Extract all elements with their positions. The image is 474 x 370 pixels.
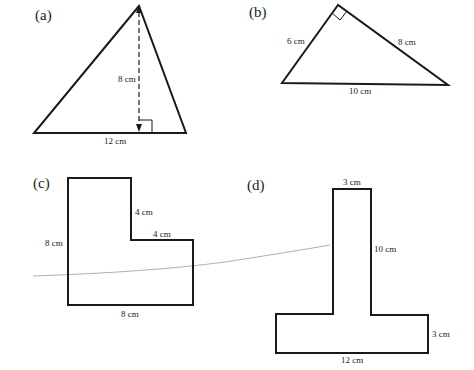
side-8-label: 8 cm [398,37,416,47]
base-label: 12 cm [104,136,126,146]
height-label: 8 cm [118,74,136,84]
right-angle-mark [332,11,347,20]
inner-vertical-label: 4 cm [135,207,153,217]
inner-horizontal-label: 4 cm [153,229,171,239]
figure-d: (d) 3 cm 10 cm 3 cm 12 cm [247,177,450,365]
figure-b: (b) 6 cm 8 cm 10 cm [249,4,448,96]
bottom-label: 8 cm [121,309,139,319]
l-shape [68,178,193,305]
pencil-mark [33,245,330,276]
figure-c: (c) 8 cm 4 cm 4 cm 8 cm [33,175,193,319]
figure-d-label: (d) [247,177,265,194]
arrow-down-icon [136,124,142,132]
base-width-label: 12 cm [341,355,363,365]
hypotenuse-label: 10 cm [349,86,371,96]
stem-height-label: 10 cm [374,244,396,254]
top-width-label: 3 cm [343,177,361,187]
figure-c-label: (c) [33,175,50,192]
side-6-label: 6 cm [287,36,305,46]
figure-a: (a) 8 cm 12 cm [34,5,186,146]
figure-b-label: (b) [249,4,267,21]
t-shape [276,189,428,353]
figure-a-label: (a) [35,7,52,24]
left-side-label: 8 cm [45,238,63,248]
triangle-b [282,5,448,85]
base-height-label: 3 cm [432,329,450,339]
triangle-a [34,6,186,133]
geometry-figures: (a) 8 cm 12 cm (b) 6 cm 8 cm 10 cm (c) 8… [0,0,474,370]
